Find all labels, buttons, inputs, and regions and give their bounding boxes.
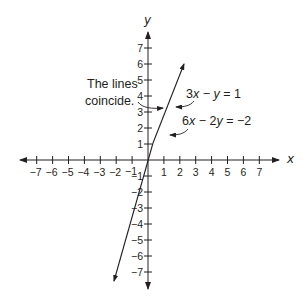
- y-tick-label: −2: [131, 186, 143, 198]
- coincide-label-line1: The lines: [87, 77, 138, 91]
- y-tick-label: −1: [131, 170, 143, 182]
- x-tick-label: 7: [256, 166, 262, 178]
- x-tick-label: 4: [209, 166, 215, 178]
- equation-1-label: 3x − y = 1: [186, 87, 241, 101]
- y-tick-label: −6: [131, 250, 143, 262]
- y-tick-label: 5: [137, 74, 143, 86]
- y-tick-label: −5: [131, 234, 143, 246]
- x-tick-label: −4: [77, 166, 89, 178]
- equation-2-label: 6x − 2y = −2: [182, 114, 251, 128]
- y-tick-label: 2: [137, 122, 143, 134]
- chart-svg: −7−6−5−4−3−2−11234567 1−12−23−34−45−56−6…: [0, 0, 305, 308]
- equation-2-arrow: [170, 129, 188, 135]
- y-tick-label: 3: [137, 106, 143, 118]
- x-tick-label: 5: [225, 166, 231, 178]
- x-axis-label: x: [286, 152, 295, 166]
- x-tick-label: 3: [193, 166, 199, 178]
- x-tick-label: −7: [30, 166, 42, 178]
- y-tick-label: −7: [131, 266, 143, 278]
- y-tick-label: 4: [137, 90, 143, 102]
- coordinate-plane-figure: −7−6−5−4−3−2−11234567 1−12−23−34−45−56−6…: [0, 0, 305, 308]
- y-tick-label: 1: [137, 138, 143, 150]
- x-tick-label: 2: [177, 166, 183, 178]
- x-tick-label: −3: [93, 166, 105, 178]
- coincide-label-line2: coincide.: [85, 94, 134, 108]
- x-tick-label: −5: [62, 166, 74, 178]
- x-tick-label: 6: [240, 166, 246, 178]
- y-tick-label: −4: [131, 218, 143, 230]
- graph-line-upper: [153, 64, 184, 143]
- y-tick-label: 7: [137, 42, 143, 54]
- x-tick-label: −6: [46, 166, 58, 178]
- x-tick-label: −2: [109, 166, 121, 178]
- y-tick-label: 6: [137, 58, 143, 70]
- equation-1-arrow: [176, 101, 194, 107]
- x-tick-label: 1: [161, 166, 167, 178]
- y-axis-label: y: [143, 13, 152, 27]
- y-tick-label: −3: [131, 202, 143, 214]
